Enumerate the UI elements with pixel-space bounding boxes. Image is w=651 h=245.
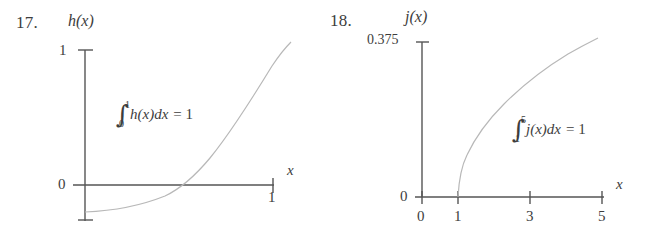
function-title-j: j(x) bbox=[405, 9, 427, 25]
integral-sign: ∫10 bbox=[116, 105, 129, 125]
integral-upper-limit: 1 bbox=[125, 101, 130, 109]
integral-equals: = 1 bbox=[566, 121, 586, 137]
y-tick-label-0: 0 bbox=[58, 177, 66, 192]
x-tick-label-0: 0 bbox=[417, 209, 425, 224]
x-tick-label-1: 1 bbox=[268, 190, 276, 205]
worksheet-page: 17. h(x) 1 0 1 x ∫10h(x)dx= 1 18. j( bbox=[0, 0, 651, 245]
integral-sign: ∫51 bbox=[512, 120, 525, 140]
function-title-h: h(x) bbox=[68, 13, 94, 29]
integrand: j(x)dx bbox=[526, 121, 561, 137]
x-tick-label-1: 1 bbox=[454, 209, 462, 224]
figure-18: 18. j(x) 0.375 0 0 1 3 5 x ∫51j(x)dx= 1 bbox=[320, 0, 651, 245]
curve-j bbox=[458, 38, 598, 197]
x-tick-label-3: 3 bbox=[526, 209, 534, 224]
integrand: h(x)dx bbox=[130, 106, 168, 122]
integral-lower-limit: 1 bbox=[515, 135, 520, 143]
integral-expression-18: ∫51j(x)dx= 1 bbox=[512, 120, 586, 140]
integral-equals: = 1 bbox=[173, 106, 193, 122]
y-tick-label-0375: 0.375 bbox=[367, 33, 399, 47]
integral-lower-limit: 0 bbox=[119, 120, 124, 128]
x-tick-label-5: 5 bbox=[598, 209, 606, 224]
y-tick-label-0: 0 bbox=[400, 189, 408, 204]
x-axis-label: x bbox=[616, 177, 623, 192]
problem-number-17: 17. bbox=[16, 14, 38, 31]
y-tick-label-1: 1 bbox=[59, 43, 67, 58]
integral-upper-limit: 5 bbox=[521, 116, 526, 124]
integral-expression-17: ∫10h(x)dx= 1 bbox=[116, 105, 193, 125]
x-axis-label: x bbox=[287, 163, 294, 178]
problem-number-18: 18. bbox=[330, 12, 352, 29]
figure-17: 17. h(x) 1 0 1 x ∫10h(x)dx= 1 bbox=[0, 0, 330, 245]
